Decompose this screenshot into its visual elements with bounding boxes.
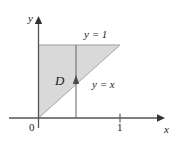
math-figure: y x 0 1 D y = 1 y = x [0, 0, 178, 166]
region-label-d: D [55, 74, 64, 87]
y-axis-arrowhead [35, 16, 42, 24]
figure-canvas [0, 0, 178, 166]
boundary-label-top: y = 1 [84, 29, 107, 40]
origin-label: 0 [29, 122, 35, 133]
x-axis-arrowhead [157, 114, 165, 122]
x-axis-label: x [164, 124, 169, 135]
x-tick-label-1: 1 [117, 122, 123, 133]
y-axis-label: y [28, 13, 33, 24]
boundary-label-diagonal: y = x [92, 79, 115, 90]
